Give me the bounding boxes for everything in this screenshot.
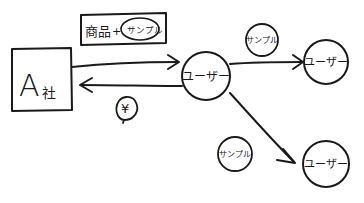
goods-sample-text: サンプル (127, 25, 163, 35)
yen-label: ¥ (116, 97, 137, 123)
company-node: A 社 (12, 48, 72, 111)
sample-top-text: サンプル (246, 36, 278, 45)
user-top-right-label: ユーザー (304, 56, 348, 69)
goods-plus-text: + (112, 25, 121, 38)
arrow-user-to-company (80, 78, 182, 92)
yen-text: ¥ (121, 101, 129, 116)
goods-label: 商品 + サンプル (81, 13, 166, 45)
company-label-main: A (19, 68, 40, 103)
arrow-user-to-top-right (230, 55, 303, 69)
user-bottom-right-label: ユーザー (304, 158, 348, 171)
sample-top-label: サンプル (246, 24, 278, 56)
arrow-company-to-user (72, 55, 179, 69)
user-bottom-right-node: ユーザー (303, 141, 349, 187)
user-center-node: ユーザー (182, 52, 230, 100)
company-label-sub: 社 (42, 85, 56, 101)
sample-bottom-text: サンプル (219, 150, 251, 159)
user-center-label: ユーザー (182, 70, 230, 84)
sample-bottom-label: サンプル (218, 137, 252, 171)
flow-diagram: A 社 商品 + サンプル ¥ ユーザー サンプル ユー (0, 0, 364, 203)
goods-product-text: 商品 (85, 24, 111, 39)
user-top-right-node: ユーザー (304, 40, 348, 84)
